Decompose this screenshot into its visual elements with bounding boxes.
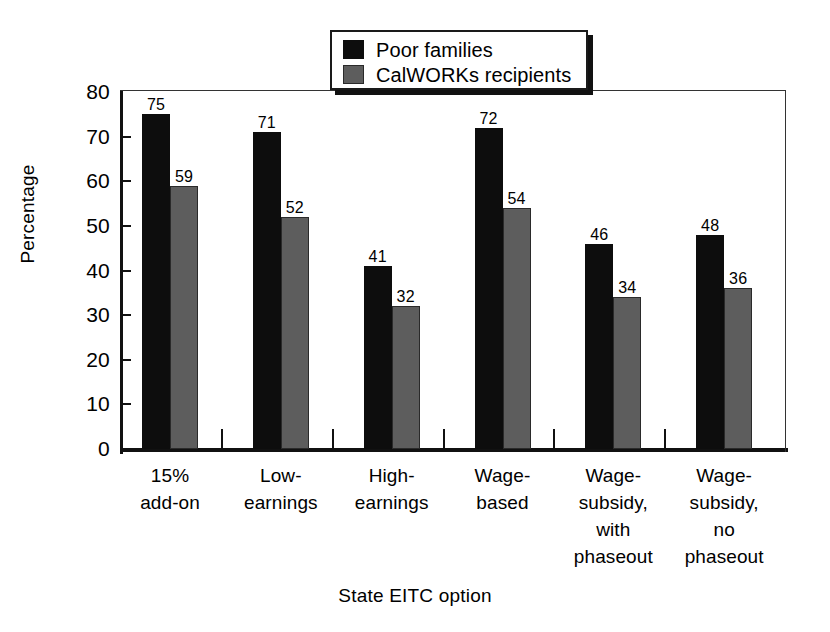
bar-value-label: 32 — [397, 289, 415, 305]
x-axis-tick-label-line: subsidy, — [669, 489, 780, 516]
x-axis-tick-mark — [553, 429, 555, 449]
x-axis-tick-label-line: High- — [336, 462, 447, 489]
x-axis-tick-label: Low-earnings — [225, 462, 336, 516]
bar-1: 59 — [170, 186, 198, 449]
x-axis-tick-label-line: Low- — [225, 462, 336, 489]
y-axis-tick-label: 70 — [58, 126, 110, 147]
x-axis-tick-mark — [664, 429, 666, 449]
x-axis-tick-label-line: earnings — [225, 489, 336, 516]
x-axis-tick-label: Wage-based — [447, 462, 558, 516]
bar-0: 46 — [585, 244, 613, 449]
bar-chart-figure: Percentage 01020304050607080 75597152413… — [0, 0, 830, 632]
x-axis-tick-label-line: no — [669, 516, 780, 543]
bar-value-label: 48 — [701, 218, 719, 234]
y-axis-tick-mark — [120, 359, 131, 361]
bar-value-label: 52 — [286, 200, 304, 216]
y-axis-tick-label: 40 — [58, 260, 110, 281]
bar-value-label: 54 — [507, 191, 525, 207]
x-axis-tick-mark — [221, 429, 223, 449]
bar-0: 41 — [364, 266, 392, 449]
y-axis-title: Percentage — [17, 124, 39, 304]
x-axis-tick-label-line: Wage- — [447, 462, 558, 489]
bar-1: 34 — [613, 297, 641, 449]
y-axis-tick-mark — [120, 270, 131, 272]
x-axis-tick-label-line: Wage- — [558, 462, 669, 489]
bar-0: 71 — [253, 132, 281, 449]
y-axis-line — [120, 90, 123, 454]
plot-top-border — [120, 90, 786, 91]
y-axis-tick-label: 30 — [58, 304, 110, 325]
legend-item-0: Poor families — [343, 37, 586, 62]
x-axis-tick-label-line: phaseout — [558, 543, 669, 570]
black-square-icon — [343, 40, 364, 59]
bar-0: 75 — [142, 114, 170, 449]
legend-item-1: CalWORKs recipients — [343, 62, 586, 87]
x-axis-tick-label: High-earnings — [336, 462, 447, 516]
chart-legend: Poor familiesCalWORKs recipients — [330, 30, 588, 90]
x-axis-tick-label-line: with — [558, 516, 669, 543]
bar-value-label: 72 — [479, 111, 497, 127]
y-axis-tick-mark — [120, 314, 131, 316]
x-axis-tick-label: 15%add-on — [115, 462, 226, 516]
x-axis-tick-label: Wage-subsidy,nophaseout — [669, 462, 780, 570]
x-axis-tick-label-line: phaseout — [669, 543, 780, 570]
x-axis-tick-labels: 15%add-onLow-earningsHigh-earningsWage-b… — [120, 462, 785, 582]
y-axis-tick-label: 60 — [58, 170, 110, 191]
x-axis-title: State EITC option — [0, 585, 830, 607]
bar-1: 32 — [392, 306, 420, 449]
x-axis-tick-label-line: subsidy, — [558, 489, 669, 516]
bar-value-label: 75 — [147, 97, 165, 113]
y-axis-tick-mark — [120, 180, 131, 182]
x-axis-tick-label-line: based — [447, 489, 558, 516]
y-axis-tick-label: 0 — [58, 438, 110, 459]
y-axis-tick-mark — [120, 403, 131, 405]
x-axis-tick-label-line: add-on — [115, 489, 226, 516]
gray-square-icon — [343, 65, 364, 84]
bar-0: 72 — [475, 128, 503, 449]
bar-value-label: 36 — [729, 271, 747, 287]
y-axis-tick-mark — [120, 136, 131, 138]
bar-value-label: 41 — [369, 249, 387, 265]
x-axis-tick-label-line: 15% — [115, 462, 226, 489]
x-axis-tick-mark — [443, 429, 445, 449]
x-axis-tick-mark — [332, 429, 334, 449]
bar-value-label: 34 — [618, 280, 636, 296]
plot-area: 755971524132725446344836 — [120, 92, 785, 452]
legend-item-label: Poor families — [376, 39, 493, 61]
bar-1: 52 — [281, 217, 309, 449]
bar-0: 48 — [696, 235, 724, 449]
plot-right-border — [785, 90, 786, 452]
bar-value-label: 46 — [590, 227, 608, 243]
bar-value-label: 59 — [175, 169, 193, 185]
y-axis-tick-label: 80 — [58, 81, 110, 102]
bar-1: 54 — [503, 208, 531, 449]
y-axis-tick-mark — [120, 225, 131, 227]
bar-value-label: 71 — [258, 115, 276, 131]
y-axis-tick-label: 10 — [58, 393, 110, 414]
bar-1: 36 — [724, 288, 752, 449]
y-axis-tick-label: 20 — [58, 349, 110, 370]
x-axis-tick-label: Wage-subsidy,withphaseout — [558, 462, 669, 570]
x-axis-tick-label-line: Wage- — [669, 462, 780, 489]
legend-item-label: CalWORKs recipients — [376, 64, 571, 86]
y-axis-tick-label: 50 — [58, 215, 110, 236]
x-axis-tick-label-line: earnings — [336, 489, 447, 516]
